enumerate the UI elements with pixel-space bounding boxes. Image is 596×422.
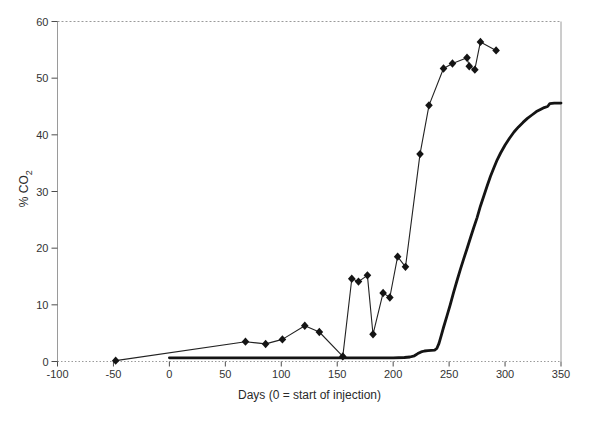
y-tick-label: 10 xyxy=(36,299,48,311)
diamond-marker xyxy=(425,101,433,109)
figure-page: { "figure": { "background": "#ffffff", "… xyxy=(0,0,596,422)
diamond-marker xyxy=(364,271,372,279)
x-tick-label: 150 xyxy=(328,368,346,380)
diamond-marker xyxy=(301,322,309,330)
x-axis-title: Days (0 = start of injection) xyxy=(58,388,561,403)
x-tick-label: 50 xyxy=(219,368,231,380)
diamond-marker xyxy=(369,330,377,338)
diamond-marker xyxy=(477,38,485,46)
diamond-marker xyxy=(449,59,457,67)
thick-line-series xyxy=(169,103,561,358)
diamond-marker xyxy=(440,64,448,72)
diamond-marker xyxy=(379,289,387,297)
y-tick-label: 60 xyxy=(36,16,48,28)
diamond-marker xyxy=(386,293,394,301)
y-tick-label: 0 xyxy=(42,356,48,368)
y-tick-label: 50 xyxy=(36,72,48,84)
y-axis-title: % CO2 xyxy=(17,144,36,234)
diamond-marker xyxy=(279,335,287,343)
y-axis-title-text: % CO xyxy=(17,175,31,207)
diamond-marker xyxy=(463,54,471,62)
y-tick-label: 20 xyxy=(36,242,48,254)
x-tick-label: 250 xyxy=(440,368,458,380)
plot-area: -100-50050100150200250300350010203040506… xyxy=(0,0,596,422)
diamond-series-line xyxy=(116,42,496,361)
x-tick-label: 100 xyxy=(272,368,290,380)
x-tick-label: 200 xyxy=(384,368,402,380)
diamond-marker xyxy=(242,337,250,345)
diamond-marker xyxy=(348,275,356,283)
diamond-marker xyxy=(355,277,363,285)
x-tick-label: 350 xyxy=(552,368,570,380)
y-tick-label: 40 xyxy=(36,129,48,141)
y-tick-label: 30 xyxy=(36,186,48,198)
diamond-marker xyxy=(416,150,424,158)
co2-line-chart: -100-50050100150200250300350010203040506… xyxy=(0,0,596,422)
diamond-marker xyxy=(492,46,500,54)
x-tick-label: -50 xyxy=(105,368,121,380)
diamond-marker xyxy=(262,340,270,348)
x-tick-label: 300 xyxy=(496,368,514,380)
x-tick-label: -100 xyxy=(46,368,68,380)
y-axis-title-subscript: 2 xyxy=(24,170,34,175)
x-tick-label: 0 xyxy=(166,368,172,380)
